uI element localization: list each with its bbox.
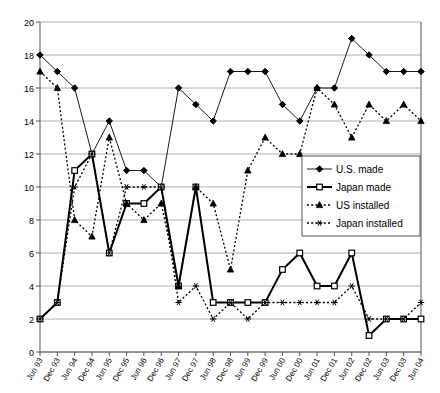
data-point-asterisk [210, 316, 216, 322]
legend: U.S. madeJapan madeUS installedJapan ins… [302, 156, 420, 236]
data-point-square [314, 283, 320, 289]
data-point-triangle [210, 200, 216, 206]
data-point-square [418, 316, 424, 322]
data-point-triangle [37, 68, 43, 74]
y-axis-tick-label: 16 [24, 84, 34, 94]
data-point-triangle [400, 101, 406, 107]
y-axis-tick-label: 2 [29, 315, 34, 325]
data-point-diamond [331, 85, 337, 91]
data-point-asterisk [141, 184, 147, 190]
legend-label: US installed [336, 200, 389, 211]
data-point-square [280, 267, 286, 273]
legend-label: Japan made [336, 182, 391, 193]
data-point-square [366, 333, 372, 339]
data-point-diamond [123, 167, 129, 173]
x-axis-tick-label: Dec 93 [42, 356, 63, 383]
data-point-diamond [106, 118, 112, 124]
y-axis-tick-label: 6 [29, 249, 34, 259]
data-point-square [297, 250, 303, 256]
data-point-asterisk [297, 300, 303, 306]
data-point-square [245, 300, 251, 306]
data-point-square [72, 168, 78, 174]
data-point-asterisk [193, 283, 199, 289]
data-point-asterisk [279, 300, 285, 306]
data-point-square [332, 283, 338, 289]
data-point-triangle [245, 167, 251, 173]
data-point-triangle [349, 134, 355, 140]
line-chart: 02468101214161820Jun 93Dec 93Jun 94Dec 9… [0, 0, 440, 393]
data-point-square [141, 201, 147, 207]
x-axis-tick-label: Dec 00 [284, 356, 305, 383]
x-axis-tick-label: Dec 01 [319, 356, 340, 383]
y-axis-tick-label: 12 [24, 150, 34, 160]
y-axis-tick-label: 20 [24, 18, 34, 28]
chart-canvas: 02468101214161820Jun 93Dec 93Jun 94Dec 9… [0, 0, 440, 393]
x-axis-tick-label: Dec 95 [111, 356, 132, 383]
data-point-diamond [418, 68, 424, 74]
y-axis-tick-label: 14 [24, 117, 34, 127]
y-axis-tick-label: 0 [29, 348, 34, 358]
x-axis-tick-label: Dec 97 [180, 356, 201, 383]
data-point-diamond [227, 68, 233, 74]
x-axis-tick-label: Dec 98 [215, 356, 236, 383]
data-point-asterisk [314, 300, 320, 306]
y-axis-tick-label: 10 [24, 183, 34, 193]
data-point-diamond [245, 68, 251, 74]
data-point-triangle [366, 101, 372, 107]
x-axis-tick-label: Dec 03 [388, 356, 409, 383]
data-point-square [317, 184, 323, 190]
data-point-square [210, 300, 216, 306]
data-point-triangle [106, 134, 112, 140]
x-axis-tick-label: Dec 96 [145, 356, 166, 383]
legend-label: Japan installed [336, 218, 403, 229]
data-point-diamond [400, 68, 406, 74]
y-axis-tick-label: 18 [24, 51, 34, 61]
data-point-triangle [262, 134, 268, 140]
x-axis-tick-label: Jun 04 [406, 356, 426, 382]
y-axis-tick-label: 4 [29, 282, 34, 292]
x-axis-tick-label: Dec 02 [353, 356, 374, 383]
data-point-diamond [262, 68, 268, 74]
y-axis-tick-label: 8 [29, 216, 34, 226]
data-point-triangle [227, 266, 233, 272]
data-point-asterisk [349, 283, 355, 289]
x-axis-tick-label: Dec 94 [76, 356, 97, 383]
legend-label: U.S. made [336, 164, 384, 175]
data-point-square [349, 250, 355, 256]
x-axis-tick-label: Dec 99 [249, 356, 270, 383]
